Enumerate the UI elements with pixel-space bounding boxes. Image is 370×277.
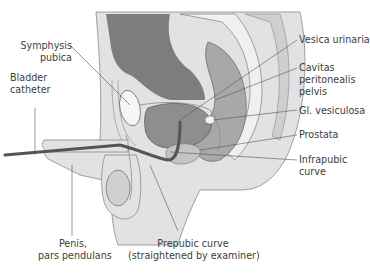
label-infrapubic-curve: Infrapubic curve [299,154,347,178]
label-penis-pars-pendulans: Penis, pars pendulans [38,238,108,262]
label-prostata: Prostata [299,129,339,141]
label-symphysis-pubica: Symphysis pubica [14,40,72,64]
label-prepubic-curve: Prepubic curve (straightened by examiner… [128,238,258,262]
label-vesica-urinaria: Vesica urinaria [299,34,370,46]
label-bladder-catheter: Bladder catheter [10,72,51,96]
testis [106,170,130,206]
label-cavitas-peritonealis-pelvis: Cavitas peritonealis pelvis [299,62,355,98]
label-gl-vesiculosa: Gl. vesiculosa [299,105,365,117]
